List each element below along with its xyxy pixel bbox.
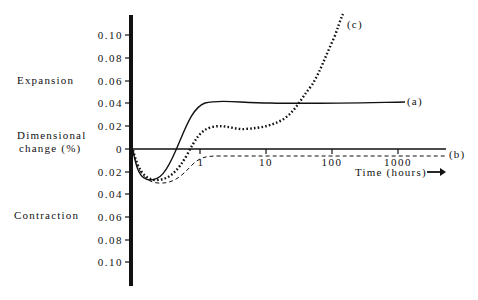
chart: 0.10 0.08 0.06 0.04 0.02 0 0.02 0.04 0.0…	[0, 0, 478, 300]
y-tick-label: 0.10	[98, 29, 123, 41]
curve-c-label: (c)	[347, 18, 363, 31]
arrow-right-icon	[427, 168, 446, 176]
y-tick-label: 0.02	[98, 120, 123, 132]
x-tick-label: 100	[322, 156, 343, 168]
x-ticks	[200, 149, 398, 154]
y-tick-label: 0.08	[98, 234, 123, 246]
curve-b-label: (b)	[449, 148, 465, 161]
y-tick-label: 0.06	[98, 211, 123, 223]
dimensional-change-label-2: change (%)	[19, 142, 81, 155]
x-tick-label: 10	[259, 156, 273, 168]
y-tick-label: 0.04	[98, 97, 123, 109]
y-tick-label: 0.10	[98, 256, 123, 268]
expansion-label: Expansion	[17, 74, 74, 86]
curve-c	[133, 14, 343, 180]
y-tick-label: 0.08	[98, 52, 123, 64]
y-tick-label: 0.04	[98, 188, 123, 200]
y-tick-labels: 0.10 0.08 0.06 0.04 0.02 0 0.02 0.04 0.0…	[98, 29, 123, 268]
y-tick-label: 0.02	[98, 166, 123, 178]
x-axis-label: Time (hours)	[355, 166, 427, 179]
dimensional-change-label: Dimensional	[17, 129, 86, 141]
y-tick-label: 0.06	[98, 75, 123, 87]
contraction-label: Contraction	[14, 209, 79, 221]
curve-a-label: (a)	[407, 95, 423, 108]
y-tick-label: 0	[116, 143, 123, 155]
